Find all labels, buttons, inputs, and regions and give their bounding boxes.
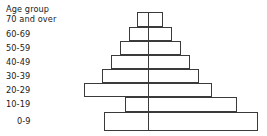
pyramid-bars-area xyxy=(0,0,267,136)
bar-40-49 xyxy=(111,55,190,69)
bar-50-59 xyxy=(120,41,181,55)
bar-30-39 xyxy=(102,69,199,83)
bar-70-and-over xyxy=(137,12,163,27)
bar-10-19 xyxy=(125,97,237,112)
bar-0-9 xyxy=(104,112,258,131)
bar-60-69 xyxy=(129,27,172,41)
population-pyramid-chart: Age group 70 and over 60-69 50-59 40-49 … xyxy=(0,0,267,136)
center-axis-line xyxy=(148,12,149,131)
